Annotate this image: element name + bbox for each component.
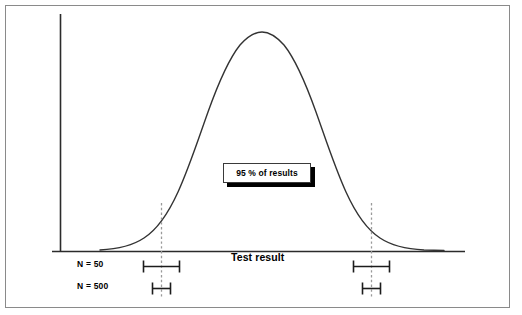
x-axis-title: Test result — [231, 252, 284, 263]
confidence-interval-callout: 95 % of results — [223, 163, 311, 183]
errorbar-n500-lower — [152, 283, 171, 295]
errorbar-row-label-n500: N = 500 — [77, 282, 108, 291]
normal-distribution-curve — [100, 32, 444, 251]
errorbar-row-label-n50: N = 50 — [77, 260, 103, 269]
confidence-interval-callout-label: 95 % of results — [236, 168, 298, 178]
figure-root: 95 % of results Test result N = 50 N = 5… — [0, 0, 522, 315]
errorbar-n500-upper — [362, 283, 381, 295]
